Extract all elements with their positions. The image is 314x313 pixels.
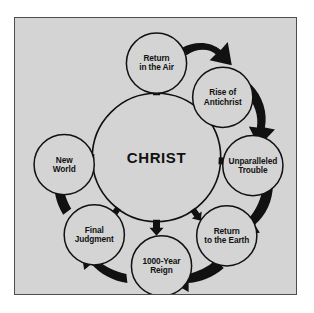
flow-air-to-antichrist-arrow bbox=[182, 42, 232, 65]
circle-new-world[interactable] bbox=[34, 134, 94, 194]
diagram-svg bbox=[15, 18, 296, 294]
circle-return-to-the-earth[interactable] bbox=[197, 206, 257, 266]
circle-return-in-the-air[interactable] bbox=[126, 33, 186, 93]
circle-rise-of-antichrist[interactable] bbox=[193, 67, 253, 127]
diagram-frame: CHRIST Return in the Air Rise of Antichr… bbox=[14, 17, 297, 295]
circle-final-judgment[interactable] bbox=[64, 205, 124, 265]
diagram-stage: CHRIST Return in the Air Rise of Antichr… bbox=[15, 18, 296, 294]
circle-1000-year-reign[interactable] bbox=[131, 236, 191, 294]
circle-unparalleled-trouble[interactable] bbox=[223, 135, 283, 195]
cropped-text-sliver bbox=[58, 0, 134, 5]
